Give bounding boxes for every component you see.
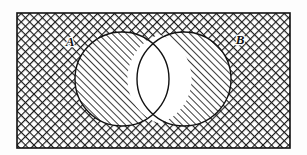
venn-diagram-canvas: A B bbox=[0, 0, 307, 155]
set-b-label: B bbox=[235, 32, 245, 47]
set-a-label: A bbox=[65, 34, 75, 49]
venn-diagram-figure: A B bbox=[0, 0, 307, 155]
